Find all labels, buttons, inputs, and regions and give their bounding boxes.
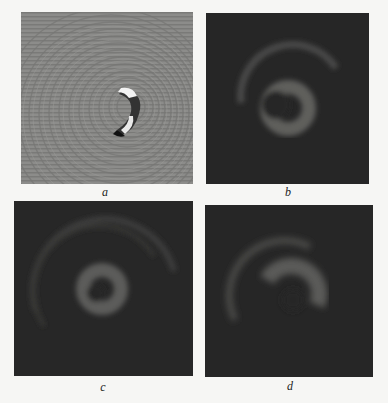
panel-d-intensity-map xyxy=(205,205,373,377)
panel-a-label: a xyxy=(95,185,115,200)
intensity-map-image xyxy=(206,13,369,184)
panel-c-label: c xyxy=(93,380,113,395)
panel-b-label: b xyxy=(278,185,298,200)
panel-a-phase-map xyxy=(21,12,193,184)
panel-b-intensity-map xyxy=(206,13,369,184)
intensity-map-image xyxy=(205,205,373,377)
phase-map-image xyxy=(21,12,193,184)
panel-c-intensity-map xyxy=(14,201,193,376)
intensity-map-image xyxy=(14,201,193,376)
panel-d-label: d xyxy=(280,379,300,394)
